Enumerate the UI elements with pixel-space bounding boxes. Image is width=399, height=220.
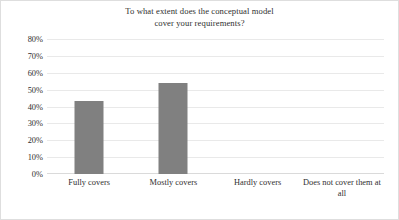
y-axis-tick-label: 10%: [1, 153, 43, 162]
bar-slot: [131, 39, 215, 174]
y-axis-tick-label: 80%: [1, 35, 43, 44]
x-axis-tick-label: Does not cover them at all: [300, 178, 384, 199]
y-axis-tick-label: 70%: [1, 51, 43, 60]
bar-slot: [300, 39, 384, 174]
x-axis-tick-label: Fully covers: [47, 178, 131, 189]
bar[interactable]: [159, 83, 188, 174]
y-axis-tick-label: 20%: [1, 136, 43, 145]
y-axis: 80%70%60%50%40%30%20%10%0%: [1, 39, 43, 174]
chart-title: To what extent does the conceptual model…: [1, 6, 398, 29]
y-axis-tick-label: 30%: [1, 119, 43, 128]
bars-layer: [47, 39, 384, 174]
bar-slot: [47, 39, 131, 174]
y-axis-tick-label: 60%: [1, 68, 43, 77]
y-axis-tick-label: 0%: [1, 170, 43, 179]
bar-chart-figure: To what extent does the conceptual model…: [0, 0, 399, 220]
x-axis: Fully coversMostly coversHardly coversDo…: [47, 178, 384, 218]
bar[interactable]: [75, 101, 104, 174]
bar-slot: [216, 39, 300, 174]
x-axis-tick-label: Mostly covers: [131, 178, 215, 189]
y-axis-tick-label: 50%: [1, 85, 43, 94]
y-axis-tick-label: 40%: [1, 102, 43, 111]
x-axis-tick-label: Hardly covers: [216, 178, 300, 189]
